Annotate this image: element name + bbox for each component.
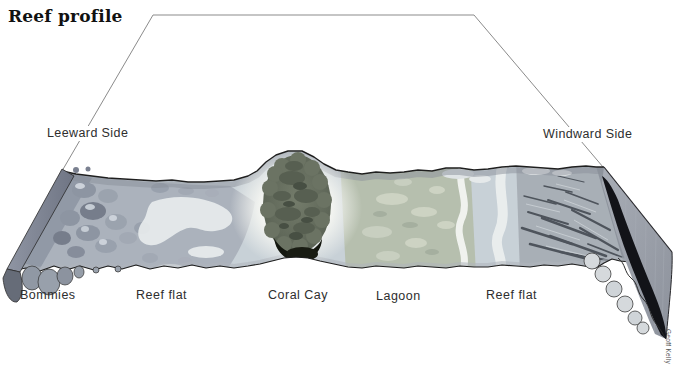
label-bommies: Bommies [20,288,76,302]
label-lagoon: Lagoon [376,289,421,303]
backreef-sand-band [497,163,503,274]
figure-title: Reef profile [8,6,123,26]
perspective-outline [62,15,603,171]
edge-bump [73,167,79,173]
artist-credit: Geoff Kelly [665,329,672,364]
edge-bump [86,167,91,172]
label-reef-flat-windward: Reef flat [486,288,537,302]
label-coral-cay: Coral Cay [268,288,328,302]
label-windward-side: Windward Side [540,127,635,142]
label-leeward-side: Leeward Side [44,126,131,141]
reef-illustration [0,0,680,377]
reef-profile-figure: Reef profile Leeward Side Windward Side … [0,0,680,377]
label-reef-flat-leeward: Reef flat [136,288,187,302]
